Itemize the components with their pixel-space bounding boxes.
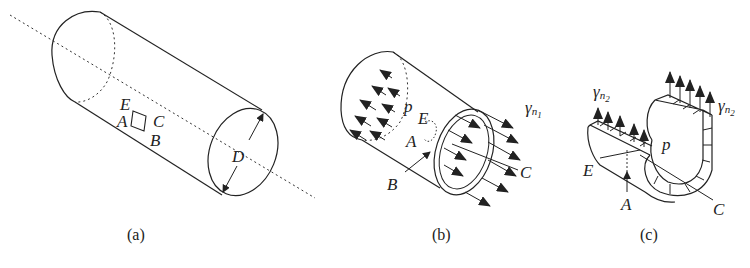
cylinder-bottom-edge (75, 102, 222, 195)
pointer-B (405, 152, 430, 172)
diameter-arrow-down (223, 166, 237, 192)
cylinder-bottom-edge (362, 140, 440, 188)
panel-a: D E A C B (a) (10, 11, 315, 244)
label-C: C (153, 112, 165, 131)
shell-rim-left (590, 121, 652, 146)
diameter-arrow-up (249, 114, 263, 140)
label-p: p (661, 135, 671, 154)
label-C: C (713, 200, 725, 219)
label-D: D (231, 147, 245, 166)
label-E: E (417, 109, 429, 128)
hatch-marks (600, 100, 712, 194)
label-A: A (116, 112, 128, 131)
caption-a: (a) (127, 226, 145, 244)
pointer-C (452, 144, 518, 170)
back-end-solid (52, 11, 100, 102)
back-end-hidden (362, 52, 408, 140)
caption-c: (c) (640, 226, 658, 244)
label-A: A (620, 195, 632, 214)
label-p: p (403, 97, 413, 116)
figure-canvas: D E A C B (a) p (0, 0, 750, 268)
label-A: A (405, 132, 417, 151)
panel-c: p E A C γn2 γn2 (c) (582, 72, 735, 244)
label-C: C (520, 163, 532, 182)
panel-b: p E A B C γn1 (b) (341, 52, 542, 244)
front-ring-inner (430, 109, 497, 195)
back-end-hidden (75, 12, 115, 102)
pointer-E (600, 150, 640, 158)
label-B: B (387, 175, 398, 194)
shell-inner-u (651, 110, 703, 184)
pressure-arrows-back (350, 70, 400, 140)
label-E: E (582, 161, 594, 180)
label-gamma: γn1 (525, 98, 542, 120)
axis-line (10, 15, 315, 198)
label-gamma-right: γn2 (718, 96, 735, 118)
stress-element (131, 111, 146, 131)
hoop-stress-arrows (444, 110, 520, 206)
label-B: B (150, 131, 161, 150)
shell-front-left (588, 127, 645, 192)
back-end-solid (341, 52, 393, 140)
shell-inner-cut (647, 100, 655, 140)
caption-b: (b) (432, 226, 451, 244)
pointer-C (640, 155, 713, 200)
label-gamma-left: γn2 (593, 82, 610, 104)
